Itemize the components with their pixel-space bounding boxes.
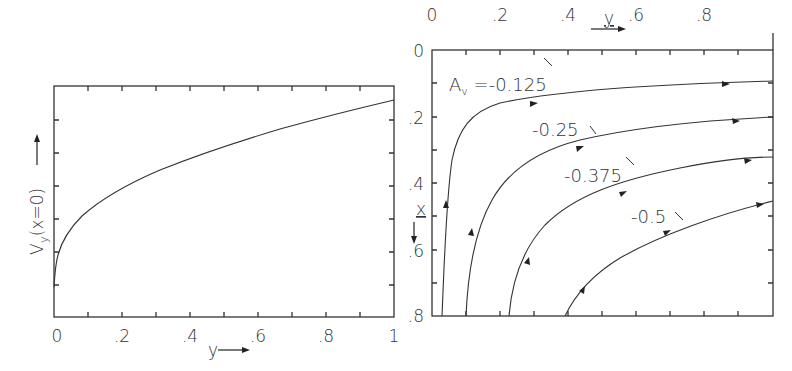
flow-arrow-icon bbox=[576, 146, 584, 152]
flow-arrow-icon bbox=[524, 257, 530, 265]
right-y-axis-label: x bbox=[416, 199, 426, 219]
x-tick-label: 0 bbox=[427, 5, 438, 25]
right-y-tick-labels: 0 .2 .4 .6 .8 bbox=[408, 41, 424, 326]
flow-arrow-icon bbox=[619, 191, 627, 197]
svg-text:Vy(x=0): Vy(x=0) bbox=[27, 188, 51, 255]
label-a-025: -0.25 bbox=[532, 119, 579, 140]
streamline-a-05 bbox=[565, 201, 773, 316]
y-tick-label: .2 bbox=[408, 108, 424, 128]
left-x-tick-labels: 0 .2 .4 .6 .8 1 bbox=[52, 326, 400, 346]
flow-arrows bbox=[443, 81, 764, 294]
x-tick-label: .6 bbox=[628, 5, 644, 25]
label-a-05: -0.5 bbox=[631, 206, 666, 227]
label-a-0375: -0.375 bbox=[564, 165, 622, 186]
flow-arrow-icon bbox=[468, 228, 474, 236]
streamline-a-0375 bbox=[509, 157, 773, 316]
x-tick-label: .4 bbox=[182, 326, 198, 346]
left-y-axis-label: Vy(x=0) bbox=[27, 188, 51, 255]
x-tick-label: .6 bbox=[250, 326, 266, 346]
y-tick-label: .8 bbox=[408, 306, 424, 326]
right-x-axis-label: y bbox=[604, 8, 614, 28]
x-tick-label: 0 bbox=[52, 326, 63, 346]
flow-arrow-icon bbox=[756, 202, 764, 208]
y-tick-label: .6 bbox=[408, 241, 424, 261]
x-tick-label: .2 bbox=[492, 5, 508, 25]
y-tick-label: .4 bbox=[408, 174, 424, 194]
x-tick-label: .4 bbox=[560, 5, 576, 25]
flow-arrow-icon bbox=[530, 101, 538, 107]
flow-arrow-icon bbox=[744, 158, 752, 164]
streamline-a-0125 bbox=[442, 81, 773, 316]
left-x-axis-label: y bbox=[208, 340, 218, 360]
figure: 0 .2 .4 .6 .8 1 y Vy(x=0) bbox=[0, 0, 792, 371]
x-tick-label: 1 bbox=[389, 326, 400, 346]
left-plot-frame bbox=[54, 86, 394, 317]
left-y-ticks bbox=[54, 120, 394, 285]
vy-curve bbox=[54, 100, 394, 287]
right-x-tick-labels: 0 .2 .4 .6 .8 bbox=[427, 5, 713, 25]
streamline-a-025 bbox=[466, 117, 773, 316]
left-x-ticks bbox=[88, 86, 360, 317]
x-tick-label: .2 bbox=[114, 326, 130, 346]
x-tick-label: .8 bbox=[696, 5, 712, 25]
label-a-0125: Av =-0.125 bbox=[449, 74, 547, 98]
left-chart bbox=[54, 86, 394, 317]
y-tick-label: 0 bbox=[413, 41, 424, 61]
x-tick-label: .8 bbox=[318, 326, 334, 346]
